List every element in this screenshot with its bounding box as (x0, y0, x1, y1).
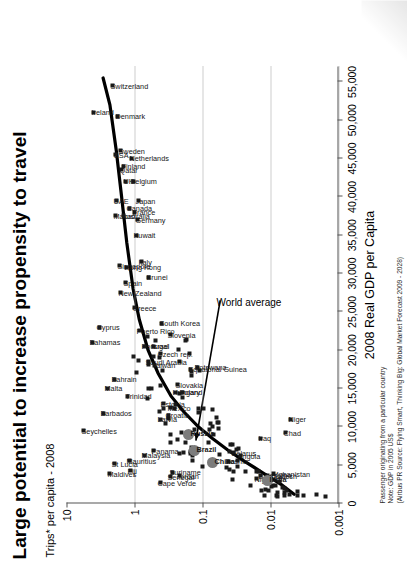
y-axis-tick (202, 502, 203, 507)
data-point (243, 469, 247, 473)
data-point-label: Jordan (176, 472, 198, 479)
bric-label: China (214, 457, 234, 464)
data-point-label: Switzerland (110, 82, 148, 89)
source-notes: Passenger originating from a particular … (378, 256, 403, 503)
data-point-label: Germany (135, 216, 165, 223)
plot-area: 2008 Real GDP per Capita 1010.10.010.001… (66, 66, 338, 503)
data-point (136, 358, 140, 362)
world-average-annotation: World average (216, 296, 281, 307)
x-axis-tick (337, 234, 342, 235)
data-point-label: Chad (283, 429, 300, 436)
data-point (201, 406, 205, 410)
data-point-label: Poland (179, 388, 202, 395)
note-line-1: Passenger originating from a particular … (378, 256, 386, 503)
x-axis-tick-label: 35,000 (345, 219, 357, 251)
x-axis-tick-label: 25,000 (345, 295, 357, 327)
data-point-label: Niger (288, 415, 305, 422)
data-point (168, 432, 172, 436)
bric-label: Russia (190, 429, 214, 436)
chart-page: Large potential to increase propensity t… (0, 0, 407, 565)
note-line-2: Note: GDP in 2005 US$ (386, 256, 394, 503)
data-point (231, 469, 235, 473)
x-axis-tick (337, 349, 342, 350)
data-point (134, 370, 138, 374)
data-point-label: South Korea (159, 319, 200, 326)
data-point-label: Belgium (130, 178, 156, 185)
data-point (190, 458, 194, 462)
x-axis-tick (337, 272, 342, 273)
y-axis-tick (66, 502, 67, 507)
data-point-label: Taiwan (152, 362, 175, 369)
data-point (196, 410, 200, 414)
x-axis-tick (337, 157, 342, 158)
data-point-label: Bahrain (111, 375, 136, 382)
x-axis-tick (337, 80, 342, 81)
data-point-label: Malta (104, 385, 122, 392)
data-point-label: Netherlands (129, 155, 168, 162)
x-axis-tick-label: 45,000 (345, 142, 357, 174)
data-point-label: Panama (151, 447, 178, 454)
rotated-figure: Large potential to increase propensity t… (0, 0, 407, 565)
data-point (131, 354, 135, 358)
bric-label: India (269, 475, 286, 482)
data-point-label: Denmark (115, 112, 145, 119)
data-point-label: New Zealand (118, 289, 161, 296)
data-point-label: Japan (135, 197, 155, 204)
data-point-label: Fiji (127, 467, 136, 474)
data-point (200, 464, 204, 468)
data-point (227, 467, 231, 471)
page-title: Large potential to increase propensity t… (8, 131, 30, 559)
bric-label: Brazil (196, 445, 216, 452)
data-point (175, 437, 179, 441)
data-point (214, 415, 218, 419)
x-axis-tick-label: 5,000 (345, 452, 357, 478)
data-point-label: Greece (132, 304, 156, 311)
data-point-label: Finland (121, 162, 145, 169)
data-point (228, 442, 232, 446)
data-point-label: Bahamas (89, 339, 120, 346)
data-point (295, 489, 299, 493)
x-axis-tick-label: 30,000 (345, 257, 357, 289)
x-axis-tick-label: 20,000 (345, 334, 357, 366)
data-point-label: Brunei (146, 273, 167, 280)
data-point (158, 383, 162, 387)
data-point (206, 440, 210, 444)
data-point-label: Botswana (194, 363, 226, 370)
data-point (210, 407, 214, 411)
x-axis-tick-label: 0 (345, 500, 357, 506)
x-axis-tick (337, 387, 342, 388)
data-point (301, 493, 305, 497)
data-point (314, 492, 318, 496)
y-axis-tick (134, 502, 135, 507)
data-point (230, 477, 234, 481)
x-axis-tick (337, 502, 342, 503)
data-point-label: Angola (237, 452, 260, 459)
data-point (181, 450, 185, 454)
data-point-label: Mexico (167, 404, 190, 411)
x-axis-tick (337, 195, 342, 196)
x-axis-tick (337, 310, 342, 311)
data-point (323, 494, 327, 498)
y-axis-tick-label: 10 (61, 509, 71, 543)
data-point (146, 386, 150, 390)
data-point (275, 490, 279, 494)
note-line-3: (Airbus PR Source: Flying Smart, Thinkin… (395, 256, 403, 503)
data-point (179, 430, 183, 434)
y-axis-tick-label: 1 (129, 509, 139, 543)
data-point (259, 488, 263, 492)
data-point-label: Seychelles (81, 427, 116, 434)
data-point-label: Kuwait (133, 231, 155, 238)
y-axis-title: Trips* per capita - 2008 (43, 443, 55, 557)
y-axis-tick-label: 0.001 (333, 509, 343, 543)
x-axis-tick-label: 10,000 (345, 410, 357, 442)
x-axis-tick (337, 464, 342, 465)
x-axis-tick-label: 50,000 (345, 104, 357, 136)
x-axis-tick (337, 119, 342, 120)
data-point (248, 483, 252, 487)
data-point-label: Barbados (100, 409, 131, 416)
data-point (215, 420, 219, 424)
x-axis-tick (337, 425, 342, 426)
y-axis-tick (270, 502, 271, 507)
scan-shadow (361, 0, 407, 60)
x-axis-tick-label: 40,000 (345, 180, 357, 212)
